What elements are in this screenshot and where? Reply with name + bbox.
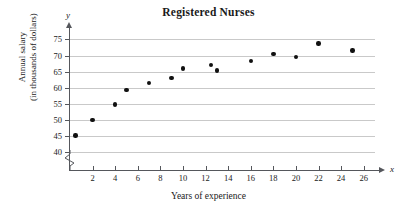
data-point xyxy=(350,48,354,52)
x-axis-tick xyxy=(296,166,297,171)
y-axis-tick xyxy=(65,104,70,105)
y-axis-tick-label: 70 xyxy=(40,52,62,61)
x-axis-tick-label: 14 xyxy=(218,174,238,183)
x-axis-tick-label: 10 xyxy=(173,174,193,183)
x-axis-tick xyxy=(160,166,161,171)
y-axis-tick xyxy=(65,120,70,121)
x-axis-tick xyxy=(251,166,252,171)
data-point xyxy=(215,68,219,72)
x-axis-tick-label: 18 xyxy=(263,174,283,183)
data-point xyxy=(181,66,185,70)
chart-figure: Registered Nurses y x Annual salary (in … xyxy=(0,0,417,216)
y-axis-title: Annual salary (in thousands of dollars) xyxy=(17,0,39,132)
y-axis-tick xyxy=(65,56,70,57)
data-point xyxy=(124,88,128,92)
x-axis-tick xyxy=(115,166,116,171)
x-axis-tick-label: 4 xyxy=(105,174,125,183)
y-axis-title-line2: (in thousands of dollars) xyxy=(28,0,39,132)
y-axis-variable-label: y xyxy=(66,10,70,20)
y-axis-tick-label: 60 xyxy=(40,84,62,93)
data-point xyxy=(73,133,77,137)
x-axis-tick xyxy=(319,166,320,171)
gridline xyxy=(70,136,375,137)
x-axis-tick-label: 8 xyxy=(150,174,170,183)
x-axis-tick xyxy=(364,166,365,171)
y-axis-arrow-icon xyxy=(66,22,72,28)
x-axis-tick-label: 12 xyxy=(196,174,216,183)
data-point xyxy=(147,81,151,85)
data-point xyxy=(169,76,173,80)
x-axis-tick xyxy=(183,166,184,171)
gridline xyxy=(70,120,375,121)
gridline xyxy=(70,88,375,89)
x-axis-tick xyxy=(138,166,139,171)
x-axis-tick-label: 2 xyxy=(83,174,103,183)
x-axis-tick-label: 20 xyxy=(286,174,306,183)
x-axis-tick-label: 26 xyxy=(354,174,374,183)
x-axis-tick-label: 24 xyxy=(331,174,351,183)
x-axis-tick xyxy=(341,166,342,171)
gridline xyxy=(70,56,375,57)
x-axis-variable-label: x xyxy=(390,164,394,174)
x-axis-tick xyxy=(206,166,207,171)
data-point xyxy=(271,52,275,56)
y-axis-tick xyxy=(65,39,70,40)
data-point xyxy=(316,41,320,45)
x-axis-tick xyxy=(93,166,94,171)
data-point xyxy=(294,55,298,59)
y-axis-tick xyxy=(65,136,70,137)
x-axis-tick-label: 16 xyxy=(241,174,261,183)
data-point xyxy=(249,59,253,63)
data-point xyxy=(209,63,213,67)
x-axis-arrow-icon xyxy=(379,167,385,173)
chart-title: Registered Nurses xyxy=(0,6,417,18)
y-axis-tick xyxy=(65,72,70,73)
data-point xyxy=(113,102,117,106)
y-axis-tick-label: 55 xyxy=(40,100,62,109)
x-axis-tick-label: 6 xyxy=(128,174,148,183)
y-axis-tick-label: 65 xyxy=(40,68,62,77)
x-axis-tick xyxy=(228,166,229,171)
x-axis-tick xyxy=(273,166,274,171)
gridline xyxy=(70,152,375,153)
x-axis-title: Years of experience xyxy=(0,191,417,201)
data-point xyxy=(90,118,94,122)
gridline xyxy=(70,39,375,40)
y-axis-title-line1: Annual salary xyxy=(17,0,28,132)
y-axis-tick xyxy=(65,88,70,89)
y-axis-tick-label: 40 xyxy=(40,148,62,157)
plot-area xyxy=(70,33,375,157)
gridline xyxy=(70,72,375,73)
y-axis-tick-label: 75 xyxy=(40,35,62,44)
x-axis-tick-label: 22 xyxy=(309,174,329,183)
y-axis-tick xyxy=(65,152,70,153)
y-axis-tick-label: 50 xyxy=(40,116,62,125)
y-axis-tick-label: 45 xyxy=(40,132,62,141)
